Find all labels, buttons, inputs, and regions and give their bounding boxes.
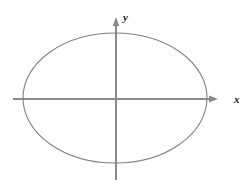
ellipse-figure: y x [0, 0, 252, 191]
ellipse-curve [23, 33, 207, 163]
y-axis-arrowhead [113, 17, 120, 26]
y-axis-label: y [121, 11, 128, 23]
x-axis-label: x [233, 93, 240, 105]
figure-canvas: y x [0, 0, 252, 191]
x-axis-arrowhead [209, 96, 218, 103]
